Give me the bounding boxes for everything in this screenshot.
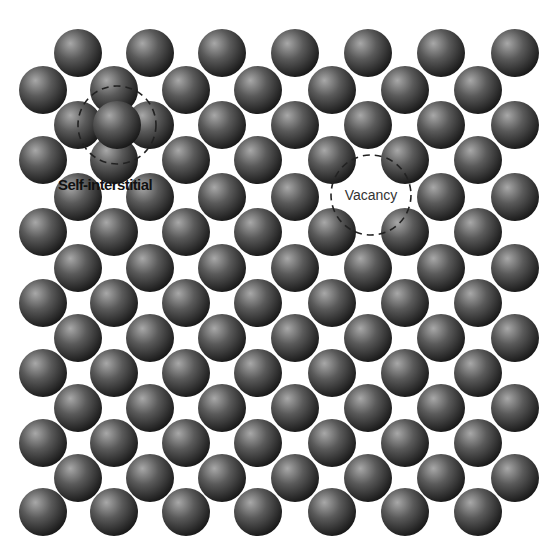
lattice-atom xyxy=(491,454,539,502)
lattice-atom xyxy=(234,488,282,536)
lattice-atom xyxy=(491,314,539,362)
lattice-atom xyxy=(381,349,429,397)
lattice-atom xyxy=(126,454,174,502)
lattice-atoms xyxy=(19,29,539,536)
lattice-atom xyxy=(198,244,246,292)
lattice-atom xyxy=(90,488,138,536)
lattice-atom xyxy=(454,419,502,467)
lattice-atom xyxy=(381,208,429,256)
lattice-atom xyxy=(126,384,174,432)
lattice-atom xyxy=(308,136,356,184)
lattice-atom xyxy=(417,29,465,77)
lattice-atom xyxy=(271,454,319,502)
lattice-atom xyxy=(234,66,282,114)
lattice-atom xyxy=(19,488,67,536)
lattice-atom xyxy=(19,66,67,114)
lattice-atom xyxy=(234,136,282,184)
self-interstitial-label: Self-interstitial xyxy=(58,176,152,193)
lattice-atom xyxy=(198,384,246,432)
lattice-atom xyxy=(417,454,465,502)
interstitial-atom-group xyxy=(93,101,141,149)
lattice-atom xyxy=(308,279,356,327)
lattice-atom xyxy=(491,29,539,77)
lattice-atom xyxy=(198,173,246,221)
lattice-atom xyxy=(198,101,246,149)
lattice-atom xyxy=(271,29,319,77)
lattice-atom xyxy=(381,279,429,327)
lattice-defect-diagram: Self-interstitial Vacancy xyxy=(0,0,560,541)
lattice-atom xyxy=(344,384,392,432)
lattice-atom xyxy=(162,488,210,536)
lattice-atom xyxy=(162,419,210,467)
lattice-atom xyxy=(454,66,502,114)
lattice-atom xyxy=(54,314,102,362)
lattice-atom xyxy=(308,419,356,467)
lattice-atom xyxy=(54,244,102,292)
lattice-atom xyxy=(308,488,356,536)
lattice-atom xyxy=(90,279,138,327)
lattice-atom xyxy=(198,314,246,362)
lattice-atom xyxy=(271,101,319,149)
lattice-atom xyxy=(454,488,502,536)
lattice-atom xyxy=(454,349,502,397)
lattice-atom xyxy=(417,384,465,432)
lattice-atom xyxy=(19,419,67,467)
lattice-atom xyxy=(162,208,210,256)
lattice-atom xyxy=(417,173,465,221)
self-interstitial-atom xyxy=(93,101,141,149)
lattice-atom xyxy=(54,29,102,77)
lattice-atom xyxy=(491,244,539,292)
lattice-atom xyxy=(417,244,465,292)
lattice-atom xyxy=(126,29,174,77)
lattice-atom xyxy=(344,314,392,362)
lattice-atom xyxy=(308,66,356,114)
lattice-atom xyxy=(381,66,429,114)
lattice-atom xyxy=(308,208,356,256)
lattice-atom xyxy=(417,314,465,362)
lattice-atom xyxy=(19,349,67,397)
lattice-atom xyxy=(198,454,246,502)
lattice-atom xyxy=(344,244,392,292)
lattice-atom xyxy=(344,29,392,77)
lattice-atom xyxy=(162,66,210,114)
lattice-atom xyxy=(234,279,282,327)
lattice-atom xyxy=(344,454,392,502)
lattice-atom xyxy=(19,279,67,327)
lattice-atom xyxy=(90,208,138,256)
lattice-atom xyxy=(381,136,429,184)
lattice-atom xyxy=(19,208,67,256)
lattice-atom xyxy=(491,101,539,149)
lattice-atom xyxy=(90,419,138,467)
lattice-atom xyxy=(417,101,465,149)
lattice-atom xyxy=(126,244,174,292)
lattice-atom xyxy=(271,244,319,292)
lattice-atom xyxy=(308,349,356,397)
lattice-atom xyxy=(54,454,102,502)
lattice-atom xyxy=(271,314,319,362)
lattice-atom xyxy=(54,384,102,432)
lattice-atom xyxy=(234,419,282,467)
lattice-atom xyxy=(344,101,392,149)
lattice-atom xyxy=(162,279,210,327)
lattice-atom xyxy=(454,136,502,184)
lattice-atom xyxy=(454,279,502,327)
lattice-atom xyxy=(491,173,539,221)
vacancy-label: Vacancy xyxy=(345,187,398,203)
lattice-atom xyxy=(162,136,210,184)
lattice-atom xyxy=(491,384,539,432)
lattice-atom xyxy=(126,314,174,362)
lattice-atom xyxy=(381,419,429,467)
lattice-atom xyxy=(198,29,246,77)
lattice-atom xyxy=(271,384,319,432)
lattice-atom xyxy=(271,173,319,221)
lattice-atom xyxy=(381,488,429,536)
lattice-atom xyxy=(454,208,502,256)
lattice-atom xyxy=(162,349,210,397)
lattice-atom xyxy=(90,349,138,397)
lattice-atom xyxy=(234,349,282,397)
lattice-atom xyxy=(234,208,282,256)
